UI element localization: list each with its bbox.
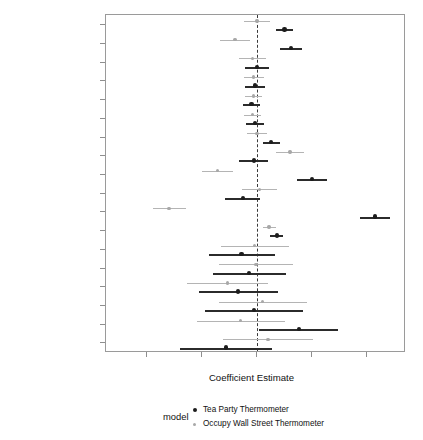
- point-estimate-marker: [267, 225, 270, 228]
- point-estimate-marker: [258, 188, 261, 191]
- point-estimate-marker: [252, 94, 255, 97]
- x-axis-title: Coefficient Estimate: [0, 372, 423, 383]
- point-estimate-marker: [251, 113, 254, 116]
- point-estimate-marker: [226, 281, 229, 284]
- point-estimate-marker: [266, 338, 269, 341]
- coefficient-plot-figure: Coefficient Estimate model Tea Party The…: [0, 0, 423, 440]
- point-estimate-marker: [239, 252, 243, 256]
- legend-item-label: Occupy Wall Street Thermometer: [203, 419, 324, 428]
- x-axis-title-text: Coefficient Estimate: [209, 372, 294, 383]
- point-estimate-marker: [241, 196, 245, 200]
- legend-color-key-occupy-wall-street: [193, 423, 196, 426]
- point-estimate-marker: [261, 300, 264, 303]
- legend-title: model: [163, 411, 189, 422]
- x-axis-tick-mark: [256, 352, 257, 357]
- x-axis-tick-mark: [311, 352, 312, 357]
- point-estimate-marker: [255, 19, 258, 22]
- point-estimate-marker: [373, 214, 377, 218]
- point-estimate-marker: [252, 75, 255, 78]
- point-estimate-marker: [275, 233, 279, 237]
- x-axis-tick-mark: [366, 352, 367, 357]
- point-estimate-marker: [239, 319, 242, 322]
- plot-panel: [105, 14, 405, 352]
- point-estimate-marker: [253, 83, 257, 87]
- point-estimate-marker: [297, 327, 301, 331]
- legend-color-key-tea-party: [193, 408, 197, 412]
- point-estimate-marker: [252, 158, 256, 162]
- point-estimate-marker: [167, 207, 170, 210]
- legend-item-label: Tea Party Thermometer: [203, 405, 289, 414]
- legend: model Tea Party ThermometerOccupy Wall S…: [0, 398, 423, 438]
- point-estimate-marker: [253, 244, 256, 247]
- point-estimate-marker: [254, 263, 257, 266]
- point-estimate-marker: [251, 57, 254, 60]
- x-axis-tick-mark: [201, 352, 202, 357]
- point-estimate-marker: [216, 169, 219, 172]
- legend-item[interactable]: Occupy Wall Street Thermometer: [203, 419, 324, 428]
- point-estimate-marker: [233, 38, 236, 41]
- x-axis-tick-mark: [146, 352, 147, 357]
- point-estimate-marker: [288, 150, 291, 153]
- point-estimate-marker: [282, 27, 286, 31]
- point-estimate-marker: [255, 132, 258, 135]
- legend-item[interactable]: Tea Party Thermometer: [203, 405, 289, 414]
